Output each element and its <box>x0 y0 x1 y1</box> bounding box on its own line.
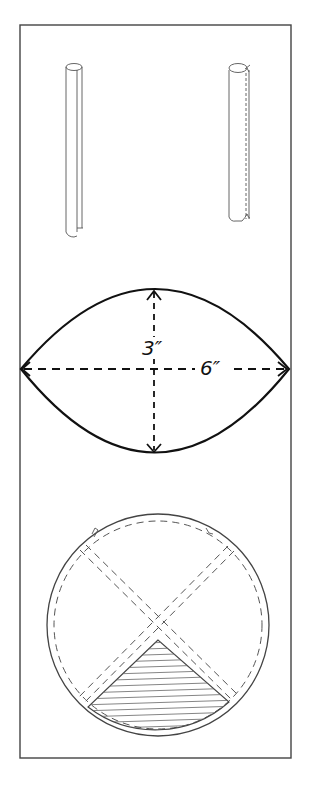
left-tube-illustration <box>66 64 83 238</box>
seam-allowance-dashed <box>54 521 262 729</box>
diagram-canvas <box>0 0 314 785</box>
circle-pattern <box>47 514 269 736</box>
lens-outline <box>21 289 289 453</box>
right-tube-illustration <box>229 64 250 222</box>
diagram-sheet: 3″ 6″ <box>0 0 314 785</box>
frame-border <box>20 25 291 758</box>
height-dimension-label: 3″ <box>142 338 162 358</box>
width-dimension-label: 6″ <box>200 358 220 378</box>
lens-pattern <box>21 289 289 453</box>
